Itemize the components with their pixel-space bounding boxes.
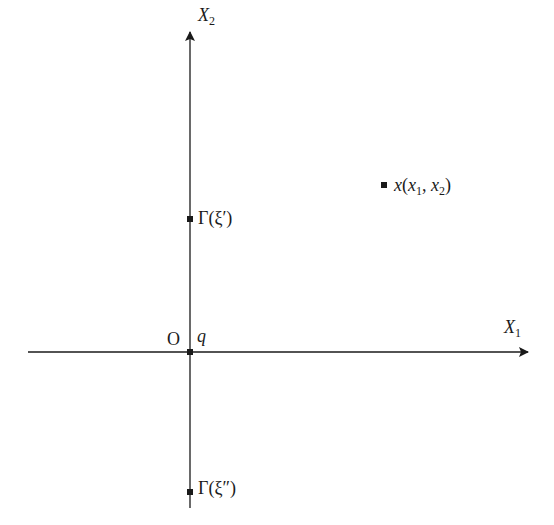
- x-point-label: x(x1, x2): [394, 176, 451, 197]
- x2-axis-label: X2: [198, 6, 215, 27]
- gamma-double-prime-label: Γ(ξ″): [198, 479, 236, 497]
- q-label: q: [197, 327, 206, 345]
- gamma-prime-label: Γ(ξ′): [198, 209, 232, 227]
- x-point-marker: [381, 182, 387, 188]
- q-point-marker: [187, 349, 193, 355]
- gamma-double-prime-marker: [187, 489, 193, 495]
- coordinate-diagram: [0, 0, 554, 525]
- origin-label: O: [167, 330, 180, 348]
- x1-axis-label: X1: [504, 318, 521, 339]
- gamma-prime-marker: [187, 216, 193, 222]
